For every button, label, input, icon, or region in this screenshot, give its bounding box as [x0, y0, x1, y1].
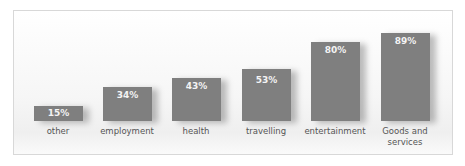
value-label: 89% [381, 36, 430, 46]
bar-other: 15% [34, 106, 83, 121]
category-label: services [365, 137, 445, 148]
category-label: health [156, 126, 236, 137]
value-label: 34% [103, 90, 152, 100]
category-label: entertainment [295, 126, 375, 137]
value-label: 53% [242, 75, 291, 85]
bar-health: 43% [172, 78, 221, 121]
value-label: 43% [172, 81, 221, 91]
value-label: 80% [311, 45, 360, 55]
bar-employment: 34% [103, 87, 152, 121]
bar-travelling: 53% [242, 69, 291, 121]
category-label: travelling [226, 126, 306, 137]
bar-entertainment: 80% [311, 42, 360, 121]
value-label: 15% [34, 108, 83, 118]
category-label: Goods and [365, 126, 445, 137]
category-label: other [18, 126, 98, 137]
category-label: employment [87, 126, 167, 137]
bar-goods-and-services: 89% [381, 33, 430, 121]
